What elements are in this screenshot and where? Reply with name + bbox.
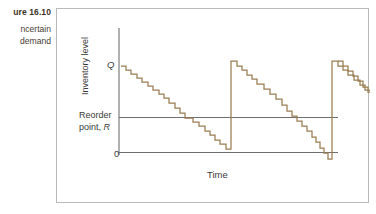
figure-root: ure 16.10 ncertain demand Inventory leve… (0, 0, 376, 214)
plot-area: Inventory level Q Reorder point, R 0 Tim… (57, 9, 368, 202)
figure-caption: ure 16.10 ncertain demand (0, 7, 52, 48)
inventory-level-staircase (121, 61, 370, 159)
figure-number: ure 16.10 (0, 7, 51, 18)
x-axis-label: Time (207, 169, 228, 180)
figure-panel: Inventory level Q Reorder point, R 0 Tim… (56, 8, 369, 203)
y-axis-label: Inventory level (80, 24, 90, 108)
tick-label-q: Q (107, 59, 114, 70)
reorder-label-line-1: Reorder (79, 109, 112, 121)
reorder-label-line-2: point, R (79, 121, 112, 133)
tick-label-reorder-point: Reorder point, R (79, 109, 112, 133)
caption-line-2: demand (0, 35, 51, 47)
caption-line-1: ncertain (0, 23, 51, 35)
tick-label-zero: 0 (114, 148, 119, 159)
reorder-label-symbol: R (104, 122, 111, 132)
reorder-label-prefix: point, (79, 122, 104, 132)
